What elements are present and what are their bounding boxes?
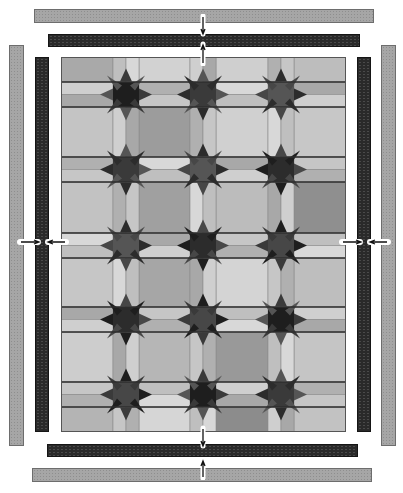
quilt-center (61, 57, 346, 432)
arrow-right-seam-icon (338, 235, 392, 249)
arrow-bottom-seam-icon (195, 424, 211, 480)
star-blocks-pattern (61, 57, 346, 432)
arrow-left-seam-icon (16, 235, 70, 249)
arrow-top-seam-icon (195, 14, 211, 66)
